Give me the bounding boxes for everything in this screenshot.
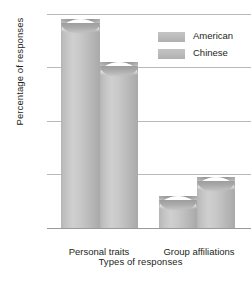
plot-area: 80 60 40 20 0 American Chinese Personal … [47,14,251,228]
legend-label-chinese: Chinese [193,47,228,58]
y-axis-title: Percentage of responses [14,0,25,147]
legend-swatch-chinese [157,48,186,60]
bar-american-personal-traits [61,19,100,228]
gridline-0-baseline [47,228,251,229]
gridline-80 [47,14,251,15]
legend-swatch-american [157,31,186,43]
bar-american-group-affiliations [159,196,197,228]
legend-label-american: American [193,30,233,41]
x-axis-title: Types of responses [30,256,251,267]
bar-chinese-group-affiliations [197,177,235,228]
bar-chinese-personal-traits [100,62,138,228]
bar-chart-figure: Percentage of responses 80 60 40 20 0 Am… [0,0,251,281]
